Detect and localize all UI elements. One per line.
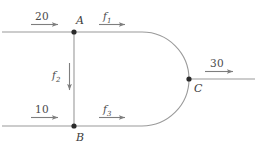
flow-value-20: 20	[35, 11, 49, 22]
flow-value-30: 30	[210, 58, 224, 69]
edge-arc-right	[142, 32, 189, 126]
node-label-c: C	[194, 83, 202, 94]
edge-label-f2: f2	[52, 70, 60, 84]
network-graphics	[0, 0, 257, 149]
flow-value-10: 10	[35, 104, 49, 115]
flow-network-diagram: 20 A f1 f2 10 f3 B C 30	[0, 0, 257, 149]
node-dot-a	[71, 29, 76, 34]
edge-label-f2-sub: 2	[56, 76, 60, 84]
edge-label-f3: f3	[103, 104, 111, 118]
node-label-a: A	[76, 15, 84, 26]
edge-label-f1-sub: 1	[107, 17, 111, 25]
edge-label-f3-sub: 3	[107, 110, 111, 118]
node-label-b: B	[76, 132, 84, 143]
node-dot-c	[186, 76, 191, 81]
edge-label-f1: f1	[103, 11, 111, 25]
node-dot-b	[71, 123, 76, 128]
